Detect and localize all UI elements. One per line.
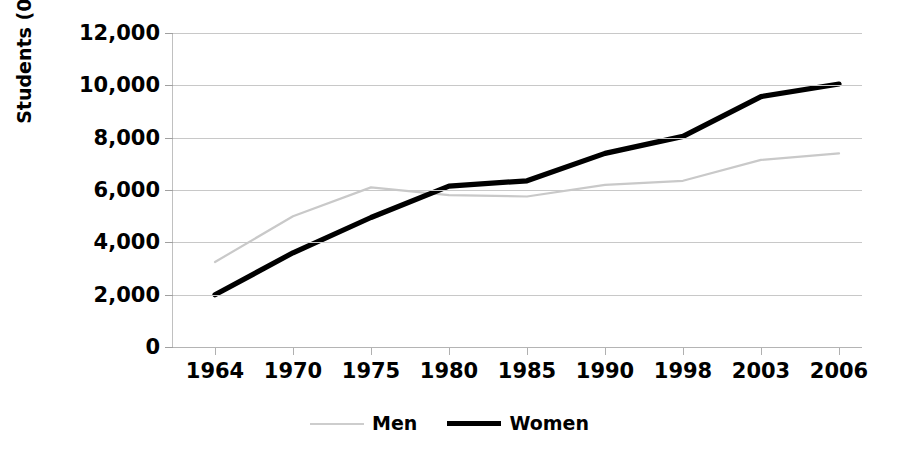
x-tick-label: 1990 [560,361,650,382]
y-tick-label: 2,000 [50,284,160,305]
y-tick-mark [165,33,173,34]
x-tick-label: 1980 [404,361,494,382]
x-tick-mark [293,348,294,355]
legend-swatch-men [310,423,364,425]
y-tick-mark [165,295,173,296]
x-tick-label: 2006 [794,361,884,382]
x-tick-mark [371,348,372,355]
y-tick-label: 10,000 [50,75,160,96]
y-tick-label: 4,000 [50,232,160,253]
x-tick-label: 1970 [248,361,338,382]
gridline [172,138,862,139]
y-tick-label: 0 [50,337,160,358]
y-tick-label: 6,000 [50,180,160,201]
y-tick-mark [165,347,173,348]
gridline [172,190,862,191]
chart-legend: MenWomen [0,414,899,433]
y-tick-mark [165,85,173,86]
y-tick-label: 8,000 [50,127,160,148]
x-tick-label: 2003 [716,361,806,382]
gridline [172,85,862,86]
x-tick-label: 1964 [170,361,260,382]
legend-swatch-women [447,421,501,426]
gridline [172,33,862,34]
legend-item-men[interactable]: Men [310,414,417,433]
gridline [172,347,862,348]
x-tick-mark [761,348,762,355]
gridline [172,242,862,243]
y-tick-label: 12,000 [50,23,160,44]
y-tick-mark [165,242,173,243]
plot-area [172,33,862,347]
y-axis-title: Students (000s) [6,0,42,208]
x-tick-mark [839,348,840,355]
legend-label: Women [509,414,589,433]
line-chart: Students (000s) 12,00010,0008,0006,0004,… [0,0,899,461]
x-tick-mark [605,348,606,355]
x-tick-label: 1998 [638,361,728,382]
x-tick-mark [215,348,216,355]
legend-item-women[interactable]: Women [447,414,589,433]
x-tick-label: 1975 [326,361,416,382]
x-tick-mark [527,348,528,355]
x-axis-tick-labels: 196419701975198019851990199820032006 [0,361,899,395]
gridline [172,295,862,296]
x-tick-label: 1985 [482,361,572,382]
y-tick-mark [165,138,173,139]
x-tick-mark [449,348,450,355]
x-tick-mark [683,348,684,355]
y-tick-mark [165,190,173,191]
legend-label: Men [372,414,417,433]
